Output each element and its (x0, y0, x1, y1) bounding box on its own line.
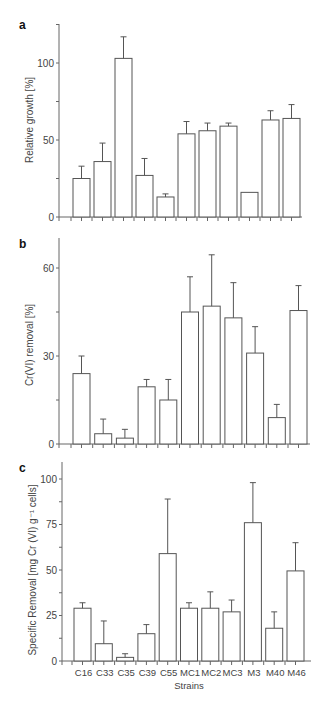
x-tick-label: M3 (247, 667, 260, 678)
bar-mc2 (202, 608, 219, 661)
bar-c16 (74, 608, 91, 661)
bar-c33 (95, 644, 112, 661)
y-tick-label: 50 (46, 565, 58, 576)
bar-m3 (244, 523, 261, 661)
x-tick-label: C39 (139, 667, 156, 678)
x-tick-label: MC1 (180, 667, 200, 678)
bar-mc3 (223, 612, 240, 661)
bar-c55 (159, 554, 176, 661)
x-tick-label: MC2 (201, 667, 221, 678)
y-tick-label: 100 (40, 474, 57, 485)
x-tick-label: C33 (96, 667, 113, 678)
x-tick-label: M46 (287, 667, 305, 678)
y-tick-label: 75 (46, 519, 58, 530)
x-axis-label: Strains (174, 680, 204, 691)
bar-m40 (266, 628, 283, 661)
y-tick-label: 25 (46, 610, 58, 621)
y-tick-label: 0 (51, 656, 57, 667)
bar-m46 (287, 571, 304, 661)
y-axis-label: Specific Removal [mg Cr (VI) g⁻¹ cells] (27, 484, 38, 655)
panel-c: c 0255075100Specific Removal [mg Cr (VI)… (0, 0, 328, 705)
x-tick-label: C16 (75, 667, 92, 678)
bar-c35 (117, 657, 134, 661)
x-tick-label: C35 (117, 667, 134, 678)
bar-c39 (138, 634, 155, 661)
chart-specific-removal: 0255075100Specific Removal [mg Cr (VI) g… (0, 0, 328, 705)
x-tick-label: C55 (160, 667, 177, 678)
bar-mc1 (181, 608, 198, 661)
x-tick-label: M40 (266, 667, 284, 678)
x-tick-label: MC3 (223, 667, 243, 678)
